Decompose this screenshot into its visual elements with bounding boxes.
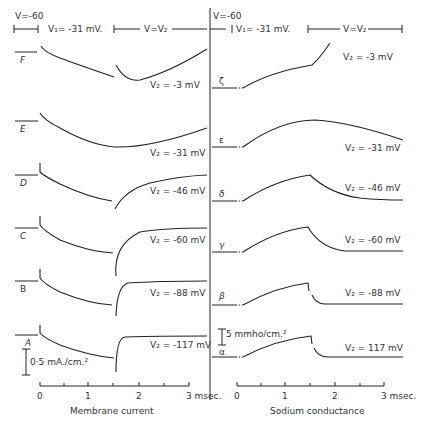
right-hold-label: V=-60	[213, 11, 242, 21]
conductance-scale-label: 5 mmho/cm.²	[226, 329, 287, 339]
v2-label-F: V₂ = -3 mV	[150, 80, 201, 90]
current-scale-label: 0·5 mA./cm.²	[30, 357, 88, 367]
trace-label-gamma: γ	[219, 240, 225, 250]
trace-label-A: A	[24, 338, 31, 348]
v2-label-A: V₂ = -117 mV	[150, 340, 212, 350]
left-test-label: V=V₂	[144, 24, 168, 34]
v2-label-B: V₂ = -88 mV	[150, 288, 206, 298]
svg-text:3 msec.: 3 msec.	[186, 391, 221, 401]
v2-label-D: V₂ = -46 mV	[150, 186, 206, 196]
v2-label-E: V₂ = -31 mV	[150, 148, 206, 158]
figure: V=-60 V₁= -31 mV. V=V₂ V=-60 V₁= -31 mV.…	[0, 0, 424, 434]
v2-label-delta: V₂ = -46 mV	[345, 183, 401, 193]
right-traces: ζ V₂ = -3 mV ε V₂ = -31 mV δ V₂ = -46 mV…	[212, 43, 404, 357]
current-scale-bar: 0·5 mA./cm.²	[22, 349, 88, 375]
trace-label-alpha: α	[219, 347, 225, 357]
right-panel-title: Sodium conductance	[270, 406, 365, 416]
left-panel-title: Membrane current	[70, 406, 154, 416]
right-protocol-header: V=-60 V₁= -31 mV. V=V₂	[210, 11, 402, 34]
left-time-axis: 0 1 2 3 msec. Membrane current	[37, 382, 221, 416]
v2-label-zeta: V₂ = -3 mV	[343, 52, 394, 62]
v2-label-gamma: V₂ = -60 mV	[345, 235, 401, 245]
v2-label-C: V₂ = -60 mV	[150, 235, 206, 245]
svg-text:1: 1	[85, 391, 91, 401]
right-time-axis: 0 1 2 3 msec. Sodium conductance	[234, 382, 416, 416]
trace-label-C: C	[20, 231, 27, 241]
left-protocol-header: V=-60 V₁= -31 mV. V=V₂	[14, 11, 207, 34]
left-prepulse-label: V₁= -31 mV.	[48, 24, 102, 34]
left-hold-label: V=-60	[15, 11, 44, 21]
v2-label-beta: V₂ = -88 mV	[345, 288, 401, 298]
v2-label-epsilon: V₂ = -31 mV	[345, 143, 401, 153]
left-traces: F V₂ = -3 mV E V₂ = -31 mV D V₂ = -46 mV…	[15, 46, 212, 375]
trace-label-delta: δ	[219, 189, 225, 199]
trace-label-F: F	[20, 55, 26, 65]
trace-label-D: D	[20, 178, 27, 188]
svg-text:0: 0	[234, 391, 240, 401]
trace-label-beta: β	[218, 291, 225, 301]
right-prepulse-label: V₁= -31 mV.	[236, 24, 290, 34]
trace-label-E: E	[20, 124, 26, 134]
trace-label-epsilon: ε	[219, 135, 224, 145]
right-test-label: V=V₂	[343, 24, 367, 34]
svg-text:3 msec.: 3 msec.	[381, 391, 416, 401]
svg-text:2: 2	[332, 391, 338, 401]
svg-text:2: 2	[136, 391, 142, 401]
v2-label-alpha: V₂ = 117 mV	[345, 343, 404, 353]
trace-label-B: B	[20, 284, 26, 294]
svg-text:0: 0	[37, 391, 43, 401]
trace-label-zeta: ζ	[219, 76, 224, 86]
svg-text:1: 1	[282, 391, 288, 401]
